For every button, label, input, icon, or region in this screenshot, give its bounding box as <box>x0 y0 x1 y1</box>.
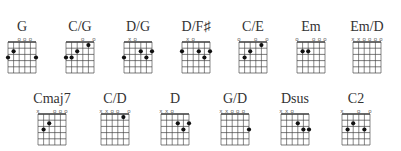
finger-dot-icon <box>180 49 184 53</box>
open-string-icon: o <box>368 108 372 114</box>
finger-dot-icon <box>362 127 366 131</box>
finger-dot-icon <box>181 127 185 131</box>
finger-dot-icon <box>12 49 16 53</box>
finger-dot-icon <box>150 49 154 53</box>
open-string-icon: o <box>363 36 367 42</box>
muted-string-icon: x <box>128 36 132 42</box>
finger-dot-icon <box>301 127 305 131</box>
finger-dot-icon <box>47 121 51 125</box>
finger-dot-icon <box>144 55 148 59</box>
finger-dot-icon <box>75 49 79 53</box>
muted-string-icon: x <box>165 108 169 114</box>
fretboard-grid: xooo <box>30 102 74 151</box>
open-string-icon: o <box>231 108 235 114</box>
muted-string-icon: x <box>279 108 283 114</box>
open-string-icon: o <box>53 108 57 114</box>
finger-dot-icon <box>247 127 251 131</box>
finger-dot-icon <box>64 55 68 59</box>
finger-dot-icon <box>243 55 247 59</box>
finger-dot-icon <box>187 121 191 125</box>
open-string-icon: o <box>64 108 68 114</box>
open-string-icon: o <box>254 36 258 42</box>
open-string-icon: o <box>368 36 372 42</box>
fretboard-grid: oooo <box>289 30 333 80</box>
open-string-icon: o <box>236 108 240 114</box>
muted-string-icon: x <box>357 36 361 42</box>
finger-dot-icon <box>351 121 355 125</box>
fretboard-grid: xxooo <box>93 102 137 151</box>
muted-string-icon: x <box>36 108 40 114</box>
fretboard-grid: ooo <box>231 30 275 80</box>
open-string-icon: o <box>318 36 322 42</box>
finger-dot-icon <box>122 55 126 59</box>
finger-dot-icon <box>307 127 311 131</box>
open-string-icon: o <box>59 108 63 114</box>
finger-dot-icon <box>70 55 74 59</box>
muted-string-icon: x <box>159 108 163 114</box>
finger-dot-icon <box>176 121 180 125</box>
finger-dot-icon <box>306 49 310 53</box>
finger-dot-icon <box>121 115 125 119</box>
muted-string-icon: x <box>351 36 355 42</box>
fretboard-grid: xxo <box>273 102 317 151</box>
open-string-icon: o <box>192 36 196 42</box>
open-string-icon: o <box>357 108 361 114</box>
finger-dot-icon <box>34 55 38 59</box>
fretboard-grid: xo <box>174 30 218 80</box>
fretboard-grid: xo <box>116 30 160 80</box>
finger-dot-icon <box>42 127 46 131</box>
open-string-icon: o <box>312 36 316 42</box>
finger-dot-icon <box>301 49 305 53</box>
finger-dot-icon <box>202 55 206 59</box>
finger-dot-icon <box>6 55 10 59</box>
fretboard-grid: xxo <box>153 102 197 151</box>
muted-string-icon: x <box>285 108 289 114</box>
finger-dot-icon <box>248 49 252 53</box>
fretboard-grid: oo <box>58 30 102 80</box>
open-string-icon: o <box>374 36 378 42</box>
fretboard-grid: xxooo <box>213 102 257 151</box>
open-string-icon: o <box>111 108 115 114</box>
muted-string-icon: x <box>186 36 190 42</box>
finger-dot-icon <box>346 127 350 131</box>
open-string-icon: o <box>171 108 175 114</box>
open-string-icon: o <box>265 36 269 42</box>
finger-dot-icon <box>259 43 263 47</box>
finger-dot-icon <box>197 49 201 53</box>
open-string-icon: o <box>127 108 131 114</box>
open-string-icon: o <box>291 108 295 114</box>
open-string-icon: o <box>237 36 241 42</box>
finger-dot-icon <box>86 43 90 47</box>
open-string-icon: o <box>18 36 22 42</box>
fretboard-grid: ooo <box>0 30 44 80</box>
finger-dot-icon <box>208 49 212 53</box>
open-string-icon: o <box>23 36 27 42</box>
open-string-icon: o <box>379 36 383 42</box>
open-string-icon: o <box>134 36 138 42</box>
open-string-icon: o <box>323 36 327 42</box>
open-string-icon: o <box>29 36 33 42</box>
fretboard-grid: xoo <box>334 102 378 151</box>
muted-string-icon: x <box>225 108 229 114</box>
muted-string-icon: x <box>99 108 103 114</box>
open-string-icon: o <box>116 108 120 114</box>
muted-string-icon: x <box>105 108 109 114</box>
muted-string-icon: x <box>340 108 344 114</box>
open-string-icon: o <box>92 36 96 42</box>
open-string-icon: o <box>242 108 246 114</box>
open-string-icon: o <box>295 36 299 42</box>
muted-string-icon: x <box>219 108 223 114</box>
fretboard-grid: xxoooo <box>345 30 389 80</box>
open-string-icon: o <box>81 36 85 42</box>
finger-dot-icon <box>296 121 300 125</box>
finger-dot-icon <box>139 49 143 53</box>
